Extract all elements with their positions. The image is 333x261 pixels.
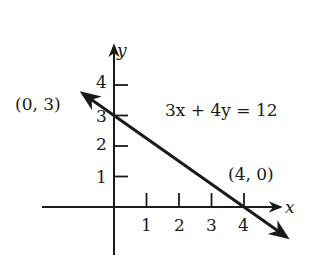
x-tick-label-1: 1 [141,215,152,235]
point-label-4-0: (4, 0) [228,164,274,184]
y-tick-label-3: 3 [96,106,107,126]
x-tick-label-4: 4 [238,215,249,235]
equation-label: 3x + 4y = 12 [165,100,278,120]
y-tick-label-2: 2 [96,134,107,154]
graph-linear-equation: y x 1 2 3 4 1 2 3 4 (0, 3) (4, 0) 3x + 4… [0,0,333,261]
x-tick-label-3: 3 [206,215,217,235]
point-label-0-3: (0, 3) [15,94,61,114]
y-tick-label-4: 4 [96,72,107,92]
y-axis-label: y [116,40,127,60]
x-tick-label-2: 2 [174,215,185,235]
x-axis-label: x [285,197,295,217]
y-tick-label-1: 1 [96,167,107,187]
